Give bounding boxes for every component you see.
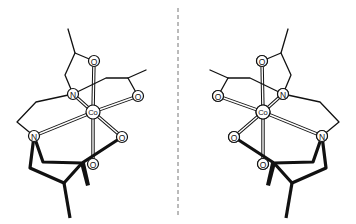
svg-text:O: O (260, 160, 267, 170)
svg-text:N: N (280, 90, 286, 100)
left-enantiomer (17, 29, 146, 218)
svg-text:O: O (231, 133, 238, 143)
enantiomer-figure: O O O O N N Co O O O O N N Co (0, 0, 356, 224)
svg-text:Co: Co (258, 108, 268, 117)
oxygen-label: O (259, 57, 266, 67)
svg-text:O: O (215, 92, 222, 102)
right-atom-labels: O O O O N N Co (213, 56, 328, 170)
svg-text:N: N (319, 132, 325, 142)
right-enantiomer (210, 29, 339, 218)
